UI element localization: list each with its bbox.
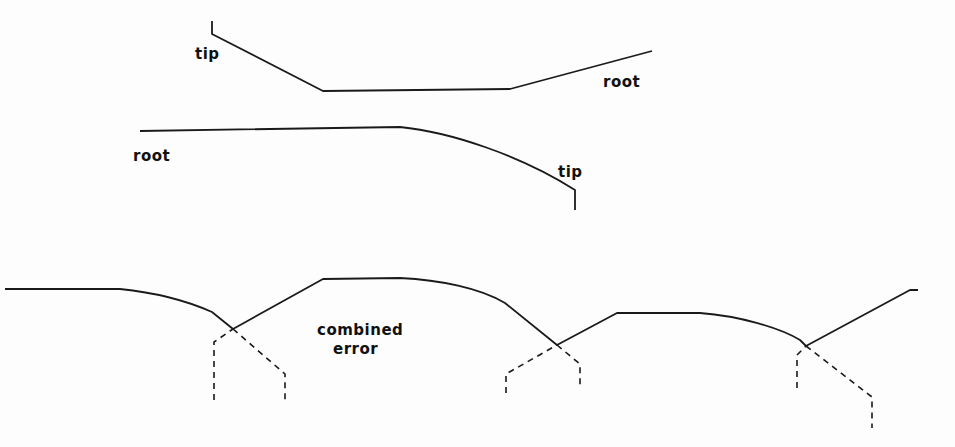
label-middle-root: root (133, 148, 170, 164)
label-middle-tip: tip (558, 164, 583, 180)
diagram-canvas: tip root root tip combined error (0, 0, 955, 447)
label-error: error (333, 341, 378, 357)
lower-error-curve (140, 127, 575, 210)
label-top-tip: tip (195, 46, 220, 62)
dashed-segment-1 (214, 329, 233, 400)
label-combined: combined (317, 322, 403, 338)
upper-error-curve (212, 21, 652, 91)
dashed-segment-5 (797, 346, 806, 388)
combined-error-curve (5, 278, 918, 346)
diagram-svg (0, 0, 955, 447)
label-top-root: root (603, 74, 640, 90)
dashed-segment-6 (806, 346, 872, 428)
dashed-segment-2 (233, 329, 285, 402)
dashed-segment-3 (506, 345, 557, 393)
dashed-segment-4 (557, 345, 580, 388)
